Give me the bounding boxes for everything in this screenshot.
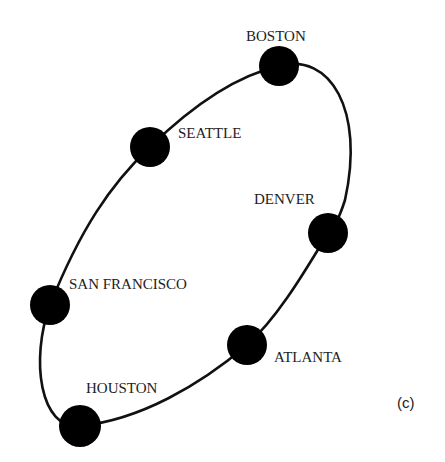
label-boston: BOSTON — [246, 28, 306, 44]
label-denver: DENVER — [254, 191, 315, 207]
ring-network-diagram: BOSTON SEATTLE DENVER SAN FRANCISCO ATLA… — [0, 0, 445, 462]
label-atlanta: ATLANTA — [274, 349, 342, 365]
label-seattle: SEATTLE — [178, 125, 241, 141]
panel-label: (c) — [397, 394, 415, 411]
node-san-francisco — [30, 285, 70, 325]
node-houston — [59, 405, 101, 447]
node-atlanta — [227, 325, 267, 365]
label-san-francisco: SAN FRANCISCO — [69, 276, 187, 292]
node-seattle — [130, 127, 170, 167]
label-houston: HOUSTON — [86, 380, 158, 396]
node-boston — [259, 46, 299, 86]
node-denver — [308, 213, 348, 253]
ring-link — [40, 64, 351, 426]
